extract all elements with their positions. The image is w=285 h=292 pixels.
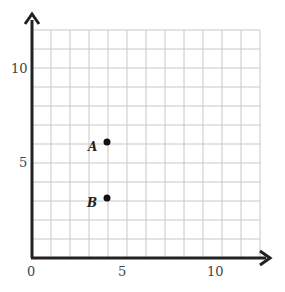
point-b	[104, 195, 111, 202]
point-a	[104, 139, 111, 146]
x-tick-10: 10	[207, 264, 224, 279]
point-b-label: B	[86, 196, 97, 210]
y-tick-10: 10	[11, 61, 28, 76]
grid-lines	[32, 30, 260, 258]
point-a-label: A	[87, 140, 97, 154]
x-tick-0: 0	[27, 264, 35, 279]
y-tick-5: 5	[19, 155, 27, 170]
x-tick-5: 5	[118, 264, 126, 279]
coordinate-plane: 0 5 10 5 10 A B	[0, 0, 285, 292]
